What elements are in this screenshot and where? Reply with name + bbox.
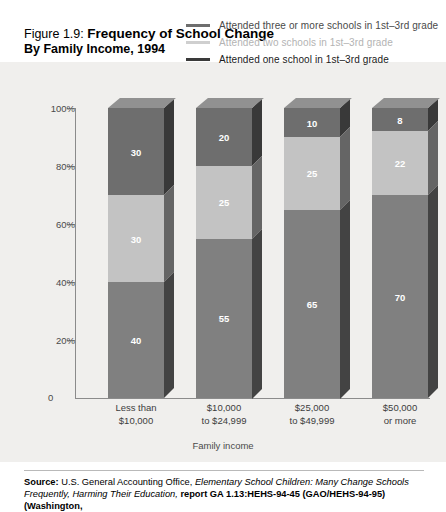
bar-stack: 82270 bbox=[372, 108, 428, 398]
bar-segment-side-face bbox=[164, 108, 174, 195]
x-axis-label-line: $10,000 bbox=[91, 415, 181, 428]
bar-side-face-fill bbox=[252, 229, 262, 399]
bar-segment[interactable]: 30 bbox=[108, 195, 164, 282]
y-axis-line bbox=[75, 108, 76, 398]
bar-segment[interactable]: 30 bbox=[108, 108, 164, 195]
x-axis-label-line: $10,000 bbox=[179, 402, 269, 415]
legend-item-three-or-more[interactable]: Attended three or more schools in 1st–3r… bbox=[186, 18, 446, 33]
legend-swatch-one bbox=[186, 58, 210, 61]
bar-segment[interactable]: 25 bbox=[196, 166, 252, 239]
bar-segment[interactable]: 8 bbox=[372, 108, 428, 131]
bar-stack: 303040 bbox=[108, 108, 164, 398]
bar-segment-side-face bbox=[340, 210, 350, 399]
source-citation: Source: U.S. General Accounting Office, … bbox=[24, 476, 436, 512]
y-axis-tick-label: 100% bbox=[51, 103, 75, 114]
x-axis-label-line: Less than bbox=[91, 402, 181, 415]
bar-stack: 102565 bbox=[284, 108, 340, 398]
bar-segment-value-label: 25 bbox=[284, 168, 340, 179]
x-axis-category-labels: Less than$10,000$10,000to $24,999$25,000… bbox=[60, 402, 430, 434]
source-divider bbox=[24, 470, 424, 471]
x-axis-label-line: to $49,999 bbox=[267, 415, 357, 428]
legend-swatch-two bbox=[186, 41, 210, 44]
bar-segment[interactable]: 20 bbox=[196, 108, 252, 166]
bar-stack: 202555 bbox=[196, 108, 252, 398]
bar-top-face bbox=[196, 98, 264, 108]
bar-segment-value-label: 40 bbox=[108, 335, 164, 346]
y-axis-zero-label: 0 bbox=[48, 392, 53, 403]
bar-segment[interactable]: 70 bbox=[372, 195, 428, 398]
chart-legend: Attended three or more schools in 1st–3r… bbox=[186, 18, 446, 69]
bar-segment-value-label: 20 bbox=[196, 132, 252, 143]
bar-segment-side-face bbox=[164, 195, 174, 282]
bar-segment-value-label: 25 bbox=[196, 197, 252, 208]
bar-segment-side-face bbox=[428, 195, 438, 398]
bar-segment-side-face bbox=[252, 166, 262, 239]
bar-segment[interactable]: 65 bbox=[284, 210, 340, 399]
x-axis-title: Family income bbox=[0, 440, 446, 451]
x-axis-category-label: $10,000to $24,999 bbox=[179, 402, 269, 427]
x-axis-label-line: to $24,999 bbox=[179, 415, 269, 428]
bar-segment-value-label: 65 bbox=[284, 298, 340, 309]
x-axis-category-label: Less than$10,000 bbox=[91, 402, 181, 427]
y-axis-tick-label: 40% bbox=[56, 277, 75, 288]
bar-side-face-fill bbox=[164, 185, 174, 282]
legend-item-two[interactable]: Attended two schools in 1st–3rd grade bbox=[186, 35, 446, 50]
x-axis-category-label: $25,000to $49,999 bbox=[267, 402, 357, 427]
bar-top-face bbox=[284, 98, 352, 108]
legend-label-two: Attended two schools in 1st–3rd grade bbox=[219, 37, 393, 48]
legend-label-three-or-more: Attended three or more schools in 1st–3r… bbox=[219, 20, 438, 31]
y-axis-tick-label: 60% bbox=[56, 219, 75, 230]
bar-segment-value-label: 30 bbox=[108, 146, 164, 157]
bar-side-face-fill bbox=[252, 156, 262, 239]
bar-segment-value-label: 10 bbox=[284, 117, 340, 128]
source-publisher: U.S. General Accounting Office, bbox=[59, 477, 195, 487]
bar-segment[interactable]: 25 bbox=[284, 137, 340, 210]
plot-area: 20%40%60%80%100% 30304020255510256582270 bbox=[60, 108, 430, 398]
x-axis-line bbox=[75, 398, 430, 399]
bar-segment-value-label: 55 bbox=[196, 313, 252, 324]
bar-segment-side-face bbox=[340, 137, 350, 210]
figure-number: Figure 1.9: bbox=[24, 27, 84, 41]
y-axis-tick-label: 80% bbox=[56, 161, 75, 172]
bar-side-face-fill bbox=[340, 127, 350, 210]
bar-side-face-fill bbox=[164, 272, 174, 398]
bar-segment-value-label: 22 bbox=[372, 158, 428, 169]
bar-side-face-fill bbox=[340, 200, 350, 399]
x-axis-label-line: or more bbox=[355, 415, 445, 428]
bar-segment[interactable]: 22 bbox=[372, 131, 428, 195]
bar-side-face-fill bbox=[428, 185, 438, 398]
y-axis-labels: 20%40%60%80%100% bbox=[15, 108, 75, 398]
legend-item-one[interactable]: Attended one school in 1st–3rd grade bbox=[186, 52, 446, 67]
bar-segment-side-face bbox=[252, 239, 262, 399]
x-axis-label-line: $50,000 bbox=[355, 402, 445, 415]
bar-segment[interactable]: 55 bbox=[196, 239, 252, 399]
bar-segment-value-label: 8 bbox=[372, 114, 428, 125]
x-axis-label-line: $25,000 bbox=[267, 402, 357, 415]
y-axis-tick-label: 20% bbox=[56, 335, 75, 346]
bar-segment[interactable]: 40 bbox=[108, 282, 164, 398]
bar-top-face bbox=[372, 98, 440, 108]
bar-segment-value-label: 30 bbox=[108, 233, 164, 244]
bar-segment-side-face bbox=[164, 282, 174, 398]
bar-top-face bbox=[108, 98, 176, 108]
bar-side-face-fill bbox=[428, 121, 438, 195]
legend-swatch-three-or-more bbox=[186, 24, 210, 27]
bar-segment-value-label: 70 bbox=[372, 291, 428, 302]
source-label: Source: bbox=[24, 477, 59, 487]
bar-segment[interactable]: 10 bbox=[284, 108, 340, 137]
x-axis-category-label: $50,000or more bbox=[355, 402, 445, 427]
legend-label-one: Attended one school in 1st–3rd grade bbox=[219, 54, 389, 65]
bar-side-face-fill bbox=[164, 98, 174, 195]
